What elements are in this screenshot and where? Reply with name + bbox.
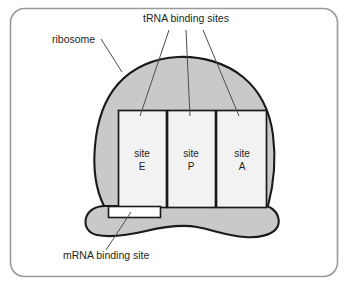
label-trna-binding-sites: tRNA binding sites <box>143 12 229 24</box>
site-e-box <box>119 111 167 208</box>
label-ribosome: ribosome <box>52 33 95 45</box>
site-e-label-word: site <box>134 148 150 159</box>
trna-site-boxes <box>119 111 267 208</box>
ribosome-diagram: tRNA binding sites ribosome mRNA binding… <box>0 0 348 285</box>
site-a-box <box>217 111 267 208</box>
site-e-label-letter: E <box>139 161 146 172</box>
site-p-label-letter: P <box>188 161 195 172</box>
label-mrna-binding-site: mRNA binding site <box>63 249 150 261</box>
site-a-label-letter: A <box>239 161 246 172</box>
site-p-box <box>168 111 216 208</box>
site-a-label-word: site <box>234 148 250 159</box>
site-p-label-word: site <box>183 148 199 159</box>
mrna-binding-site-channel <box>109 207 161 218</box>
diagram-canvas: tRNA binding sites ribosome mRNA binding… <box>0 0 348 285</box>
